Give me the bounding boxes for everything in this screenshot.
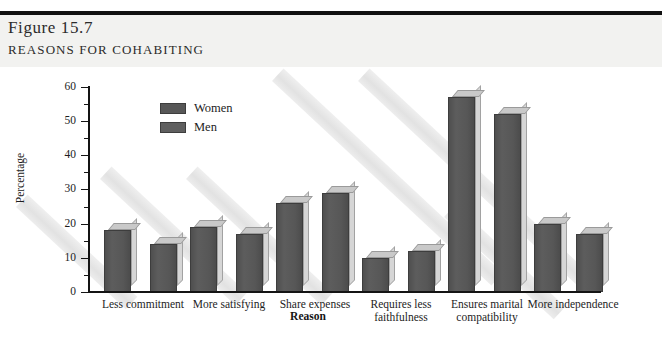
y-tick-minor <box>84 172 89 173</box>
bar-men-requires-less-faithfulness <box>408 251 435 292</box>
chart-legend: Women Men <box>160 101 233 139</box>
bar-front-face <box>190 227 217 292</box>
bar-men-ensures-marital-compatibility <box>494 114 521 292</box>
x-category-label-more-independence: More independence <box>517 298 629 311</box>
legend-entry-women: Women <box>160 101 233 116</box>
bar-men-share-expenses <box>322 193 349 292</box>
y-tick-major <box>81 224 89 225</box>
bar-men-more-satisfying <box>236 234 263 292</box>
bar-side-face <box>475 85 481 286</box>
legend-swatch-women <box>160 103 186 114</box>
bar-men-less-commitment <box>150 244 177 292</box>
bar-side-face <box>349 181 355 286</box>
bar-front-face <box>150 244 177 292</box>
y-tick-minor <box>84 138 89 139</box>
y-tick-label: 30 <box>46 182 76 194</box>
bar-front-face <box>362 258 389 292</box>
y-tick-minor <box>84 104 89 105</box>
y-tick-label: 40 <box>46 148 76 160</box>
chart-plot-area: Percentage 0 10 20 30 40 50 60 Women Men <box>0 67 662 337</box>
bar-front-face <box>494 114 521 292</box>
bar-front-face <box>448 97 475 292</box>
x-axis-title: Reason <box>248 310 368 322</box>
figure-number: Figure 15.7 <box>8 18 93 38</box>
bar-women-ensures-marital-compatibility <box>448 97 475 292</box>
y-tick-minor <box>84 241 89 242</box>
legend-label-men: Men <box>194 120 217 135</box>
x-axis-line <box>88 291 601 293</box>
y-tick-label: 0 <box>46 285 76 297</box>
bar-women-less-commitment <box>104 230 131 292</box>
y-tick-major <box>81 292 89 293</box>
legend-swatch-men <box>160 122 186 133</box>
y-tick-major <box>81 189 89 190</box>
figure-title: REASONS FOR COHABITING <box>8 42 204 58</box>
bar-front-face <box>534 224 561 292</box>
bar-women-more-satisfying <box>190 227 217 292</box>
legend-entry-men: Men <box>160 120 233 135</box>
bar-side-face <box>521 102 527 286</box>
y-tick-major <box>81 121 89 122</box>
bar-front-face <box>322 193 349 292</box>
figure-header-band <box>0 15 662 67</box>
bar-front-face <box>408 251 435 292</box>
y-axis-title: Percentage <box>14 138 26 218</box>
bar-front-face <box>576 234 603 292</box>
y-tick-label: 60 <box>46 80 76 92</box>
bar-men-more-independence <box>576 234 603 292</box>
y-tick-minor <box>84 207 89 208</box>
y-tick-major <box>81 258 89 259</box>
y-tick-major <box>81 87 89 88</box>
y-tick-label: 10 <box>46 251 76 263</box>
bar-front-face <box>236 234 263 292</box>
bar-front-face <box>276 203 303 292</box>
bar-women-more-independence <box>534 224 561 292</box>
bar-front-face <box>104 230 131 292</box>
y-tick-label: 50 <box>46 114 76 126</box>
y-tick-label: 20 <box>46 217 76 229</box>
legend-label-women: Women <box>194 101 233 116</box>
y-tick-major <box>81 155 89 156</box>
y-tick-minor <box>84 275 89 276</box>
bar-women-requires-less-faithfulness <box>362 258 389 292</box>
bar-side-face <box>303 191 309 286</box>
bar-women-share-expenses <box>276 203 303 292</box>
